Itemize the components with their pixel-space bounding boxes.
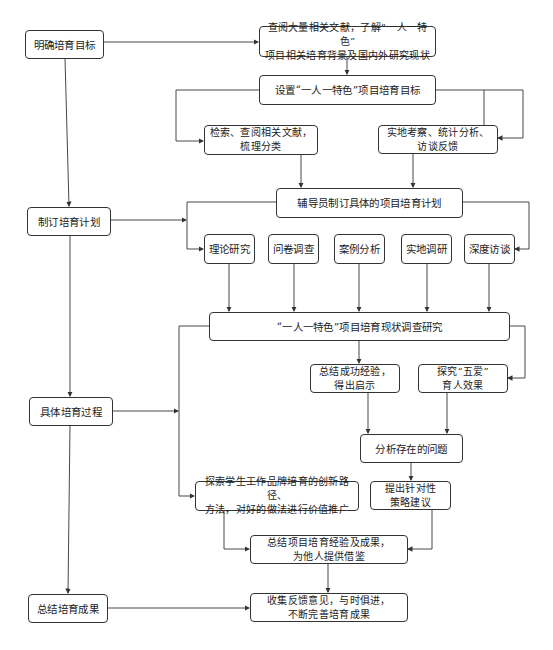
node-method-theory: 理论研究 (204, 234, 255, 264)
stage-define-goal: 明确培育目标 (25, 30, 104, 59)
node-method-questionnaire: 问卷调查 (268, 234, 319, 264)
node-explore-innovation: 探索学生工作品牌培育的创新路径、 方法，对好的做法进行价值推广 (195, 481, 359, 511)
node-summary-experience: 总结项目培育经验及成果， 为他人提供借鉴 (250, 535, 408, 564)
node-status-survey: “一人一特色”项目培育现状调查研究 (209, 312, 510, 341)
node-wuai-effect: 探究“五爱” 育人效果 (418, 364, 508, 393)
stage-process: 具体培育过程 (29, 397, 113, 426)
node-field-study: 实地考察、统计分析、 访谈反馈 (378, 125, 498, 154)
node-search-literature: 检索、查阅相关文献， 梳理分类 (204, 125, 318, 155)
node-analyze-problems: 分析存在的问题 (360, 434, 463, 463)
node-literature-review: 查阅大量相关文献，了解“一人一特色” 项目相关培育背景及国内外研究现状 (259, 26, 436, 57)
node-set-goal: 设置“一人一特色”项目培育目标 (259, 75, 436, 105)
node-collect-feedback: 收集反馈意见，与时俱进， 不断完善培育成果 (250, 593, 408, 622)
node-suggestions: 提出针对性 策略建议 (370, 481, 451, 510)
flowchart-canvas: 明确培育目标 制订培育计划 具体培育过程 总结培育成果 查阅大量相关文献，了解“… (0, 0, 553, 650)
node-counselor-plan: 辅导员制订具体的项目培育计划 (276, 188, 463, 218)
stage-summarize: 总结培育成果 (28, 594, 108, 623)
stage-make-plan: 制订培育计划 (27, 207, 111, 236)
node-method-interview: 深度访谈 (464, 234, 515, 264)
node-method-field: 实地调研 (401, 234, 452, 264)
node-method-case: 案例分析 (334, 234, 385, 264)
node-success-experience: 总结成功经验， 得出启示 (310, 364, 400, 393)
